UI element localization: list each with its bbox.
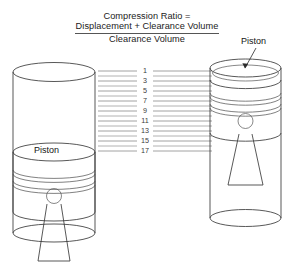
- right-piston-skirt-bottom: [210, 133, 281, 141]
- right-cylinder-group: [210, 48, 281, 227]
- measurement-scale: 1 3 5 7 9 11 13 15 17: [98, 66, 212, 156]
- label-piston-left: Piston: [34, 145, 59, 155]
- label-piston-right: Piston: [241, 36, 266, 46]
- left-cylinder-bottom-rim: [13, 224, 95, 242]
- piston-leader-arrowhead: [242, 63, 248, 68]
- scale-number-3: 3: [143, 76, 147, 85]
- scale-number-1: 1: [143, 66, 147, 75]
- scale-number-5: 5: [143, 86, 147, 95]
- scale-number-13: 13: [141, 126, 149, 135]
- diagram-canvas: Compression Ratio = Displacement + Clear…: [0, 0, 294, 262]
- right-cylinder-bottom-rim: [210, 210, 281, 227]
- right-cylinder-body: [210, 68, 281, 218]
- scale-number-17: 17: [141, 146, 149, 155]
- right-piston-ring-1: [210, 93, 281, 101]
- left-connecting-rod: [38, 204, 70, 261]
- left-wrist-pin: [47, 189, 62, 204]
- left-piston-ring-1: [13, 170, 95, 178]
- left-cylinder-group: [13, 63, 95, 262]
- right-wrist-pin: [238, 114, 253, 129]
- right-connecting-rod: [228, 134, 263, 185]
- left-cylinder-top-rim: [13, 63, 95, 82]
- scale-number-9: 9: [143, 106, 147, 115]
- scale-number-11: 11: [141, 116, 148, 125]
- scale-number-15: 15: [141, 136, 149, 145]
- left-piston-bottom-arc: [13, 212, 95, 221]
- scale-number-7: 7: [143, 96, 147, 105]
